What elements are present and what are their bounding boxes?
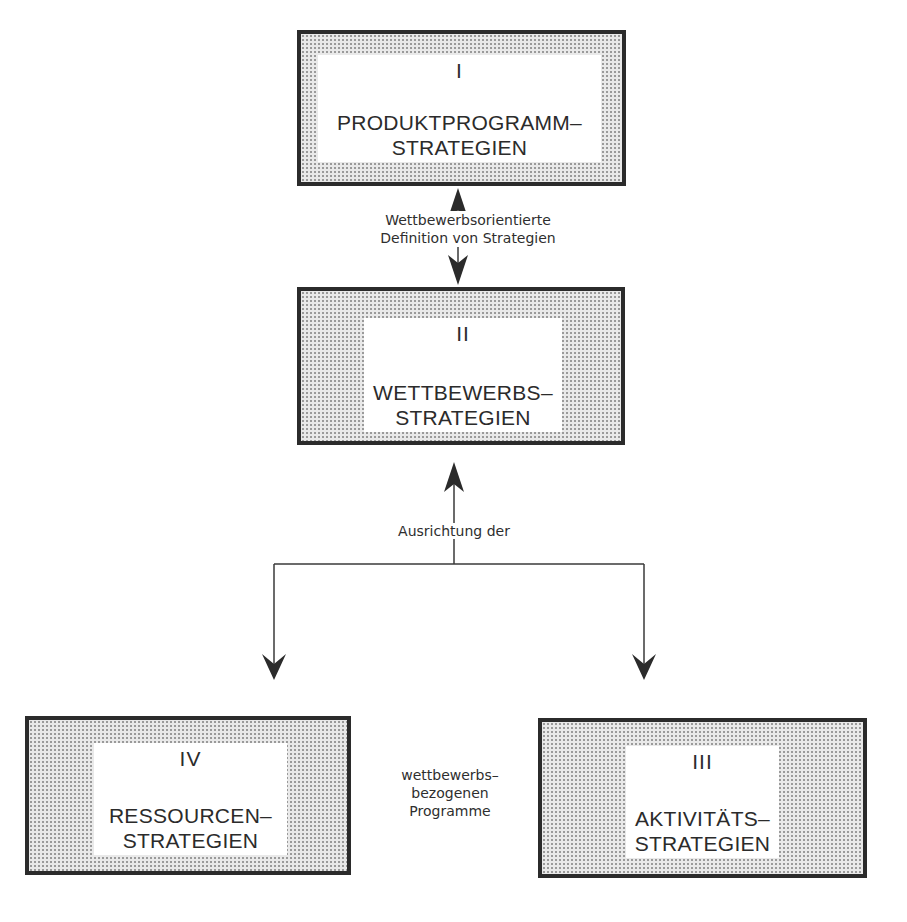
label-wettbewerbsorientierte-definition: Wettbewerbsorientierte Definition von St…: [348, 211, 588, 247]
label-wettbewerbsbezogene-programme: wettbewerbs– bezogenen Programme: [370, 766, 530, 820]
box-title: WETTBEWERBS– STRATEGIEN: [373, 380, 553, 430]
box-ressourcen-strategien: IV RESSOURCEN– STRATEGIEN: [25, 716, 351, 875]
box-title: RESSOURCEN– STRATEGIEN: [109, 803, 272, 853]
box-aktivitaets-strategien: III AKTIVITÄTS– STRATEGIEN: [538, 718, 867, 878]
box-inner: III AKTIVITÄTS– STRATEGIEN: [626, 746, 779, 858]
box-inner: II WETTBEWERBS– STRATEGIEN: [364, 318, 562, 432]
box-inner: I PRODUKTPROGRAMM– STRATEGIEN: [318, 55, 601, 162]
box-wettbewerbs-strategien: II WETTBEWERBS– STRATEGIEN: [297, 287, 625, 445]
box-title: PRODUKTPROGRAMM– STRATEGIEN: [337, 110, 582, 160]
box-numeral: IV: [180, 747, 202, 771]
box-produktprogramm-strategien: I PRODUKTPROGRAMM– STRATEGIEN: [297, 30, 626, 186]
box-inner: IV RESSOURCEN– STRATEGIEN: [94, 743, 287, 855]
box-numeral: II: [456, 322, 470, 346]
box-numeral: I: [456, 59, 463, 83]
label-ausrichtung-der: Ausrichtung der: [374, 522, 534, 540]
box-numeral: III: [692, 750, 713, 774]
box-title: AKTIVITÄTS– STRATEGIEN: [635, 806, 771, 856]
